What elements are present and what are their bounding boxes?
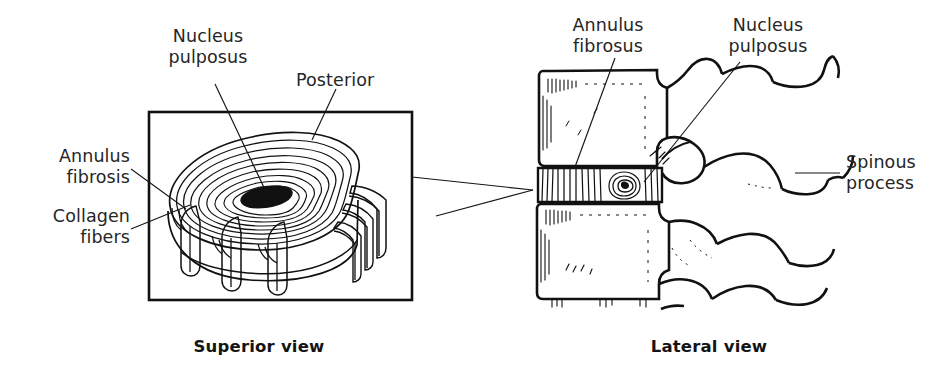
label-annulus-fibrosus-lateral-line1: Annulus [572,15,643,36]
lower-vertebra-inferior-edge [661,306,684,309]
lower-trabeculae [566,264,592,274]
upper-superior-articular-process [667,59,722,88]
label-nucleus-pulposus-lateral-line2: pulposus [728,36,807,57]
posterior-element-dots [672,184,772,266]
label-posterior-text: Posterior [296,70,374,91]
label-annulus-fibrosus-lateral-line2: fibrosus [572,36,643,57]
lower-lamina [712,286,776,300]
label-annulus-fibrosis-line2: fibrosis [59,167,130,188]
caption-lateral-view: Lateral view [651,337,768,356]
annulus-fibrosus-lateral-striations [542,169,658,201]
superior-view-disc [168,132,386,295]
upper-lamina-upper-edge [722,66,773,82]
lateral-view-spine [537,56,853,309]
lower-anterior-cortex [541,230,549,282]
lower-endplate-hatching [546,210,570,225]
spinous-process-upper-border [782,180,828,194]
upper-anterior-cortex [543,96,551,150]
label-nucleus-pulposus-lateral: Nucleus pulposus [728,15,807,57]
spinous-process-tip-lower [789,249,834,266]
lower-spinous-process [776,288,827,305]
magnifier-wedge-upper [412,177,533,190]
lower-vertebral-body [537,204,669,299]
label-nucleus-pulposus-superior: Nucleus pulposus [168,26,247,68]
disc-cylinder-wall [168,200,358,281]
label-annulus-fibrosis-line1: Annulus [59,146,130,167]
collagen-fiber-strips-right [334,186,386,282]
label-posterior: Posterior [296,70,374,91]
label-nucleus-pulposus-superior-line2: pulposus [168,47,247,68]
label-nucleus-pulposus-superior-line1: Nucleus [168,26,247,47]
spine-upper-right-edge [833,56,839,78]
leader-annulus-fibrosus-lateral [575,58,615,167]
upper-endplate-hatching [548,79,576,93]
nucleus-pulposus-lateral [609,172,640,199]
upper-trabeculae [566,109,597,135]
label-collagen-fibers: Collagen fibers [53,206,130,248]
upper-spinous-process-upper-edge [773,56,833,87]
middle-pedicle-lower [669,221,717,244]
middle-lamina [704,153,782,189]
label-collagen-fibers-line1: Collagen [53,206,130,227]
leader-nucleus-pulposus-superior [215,84,268,196]
leader-posterior [312,89,336,140]
label-annulus-fibrosis: Annulus fibrosis [59,146,130,188]
label-spinous-process-line2: process [846,173,916,194]
label-spinous-process: Spinous process [846,152,916,194]
anatomy-illustration [0,0,948,387]
spinous-process-tip-upper [828,177,843,180]
label-spinous-process-line1: Spinous [846,152,916,173]
lower-pedicle [659,279,712,299]
label-collagen-fibers-line2: fibers [53,227,130,248]
anatomy-figure: Nucleus pulposus Posterior Annulus fibro… [0,0,948,387]
label-nucleus-pulposus-lateral-line1: Nucleus [728,15,807,36]
caption-superior-view: Superior view [193,337,324,356]
facet-joint-space-upper [662,142,690,159]
leader-annulus-fibrosis [131,169,186,209]
label-annulus-fibrosus-lateral: Annulus fibrosus [572,15,643,57]
spinous-process-lower-border [717,234,789,263]
magnifier-wedge-lower [436,190,533,216]
